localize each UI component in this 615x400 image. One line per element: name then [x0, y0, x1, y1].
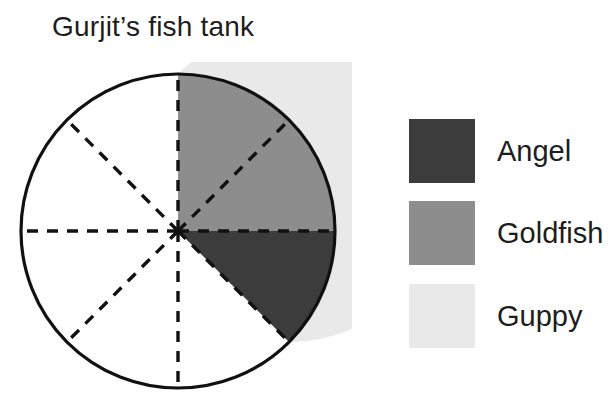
- chart-legend: Angel Goldfish Guppy: [409, 118, 615, 358]
- legend-label-guppy: Guppy: [497, 302, 582, 331]
- legend-label-angel: Angel: [497, 137, 571, 166]
- divider-225deg: [67, 231, 178, 342]
- chart-title: Gurjit’s fish tank: [52, 11, 254, 43]
- legend-item-goldfish: Goldfish: [409, 200, 615, 266]
- legend-item-angel: Angel: [409, 118, 615, 184]
- divider-315deg: [67, 120, 178, 231]
- legend-swatch-guppy: [409, 284, 475, 348]
- legend-swatch-angel: [409, 119, 475, 183]
- legend-swatch-goldfish: [409, 201, 475, 265]
- pie-chart: [12, 62, 352, 400]
- legend-item-guppy: Guppy: [409, 283, 615, 349]
- legend-label-goldfish: Goldfish: [497, 219, 603, 248]
- pie-chart-svg: [12, 62, 352, 400]
